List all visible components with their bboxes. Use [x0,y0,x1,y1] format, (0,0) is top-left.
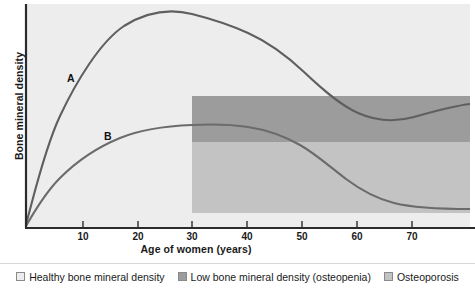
curve-b-label: B [104,130,112,142]
curve-a-label: A [67,72,75,84]
legend-item-osteoporosis: Osteoporosis [384,271,459,283]
x-axis-title: Age of women (years) [26,243,366,255]
legend-label-osteoporosis: Osteoporosis [397,271,459,283]
x-tick-label-40: 40 [241,231,252,242]
chart-legend: Healthy bone mineral density Low bone mi… [0,263,475,288]
band-osteopenia [192,96,470,142]
legend-swatch-healthy-icon [16,272,25,281]
x-tick-label-30: 30 [186,231,197,242]
legend-label-healthy: Healthy bone mineral density [29,271,164,283]
x-tick-label-20: 20 [132,231,143,242]
legend-swatch-osteoporosis-icon [384,272,393,281]
chart-figure-root: Bone mineral density [0,0,475,288]
chart-plot-area: Bone mineral density [0,0,475,262]
x-tick-label-70: 70 [406,231,417,242]
x-tick-label-60: 60 [351,231,362,242]
x-tick-label-10: 10 [77,231,88,242]
legend-item-healthy: Healthy bone mineral density [16,271,164,283]
x-tick-label-50: 50 [296,231,307,242]
chart-canvas [0,0,475,262]
legend-label-osteopenia: Low bone mineral density (osteopenia) [191,271,371,283]
legend-item-osteopenia: Low bone mineral density (osteopenia) [178,271,371,283]
legend-swatch-osteopenia-icon [178,272,187,281]
